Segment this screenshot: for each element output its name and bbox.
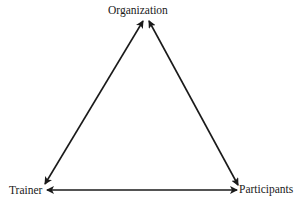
node-organization: Organization [108, 5, 168, 17]
triangle-diagram: Organization Trainer Participants [0, 0, 299, 201]
diagram-edges [0, 0, 299, 201]
edge-organization-participants [149, 21, 238, 185]
edge-organization-trainer [45, 21, 143, 184]
node-trainer: Trainer [9, 185, 42, 197]
node-participants: Participants [239, 184, 293, 196]
